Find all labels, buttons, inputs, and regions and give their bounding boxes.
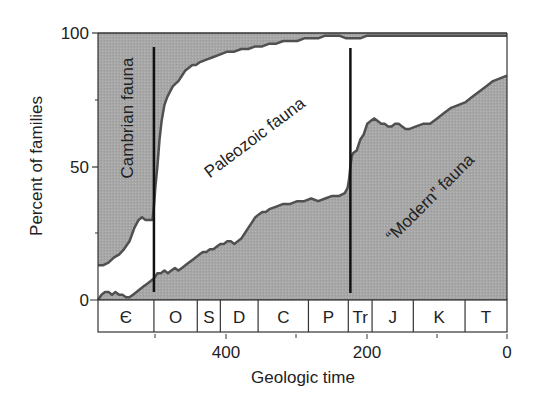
y-axis-title: Percent of families xyxy=(27,96,46,236)
cambrian-fauna-label: Cambrian fauna xyxy=(118,57,137,179)
period-label-k: K xyxy=(434,308,446,327)
x-axis-title: Geologic time xyxy=(251,368,355,387)
period-label-d: D xyxy=(233,308,245,327)
x-tick-label-0: 0 xyxy=(502,343,511,362)
x-tick-label-400: 400 xyxy=(212,343,240,362)
period-strip-frame xyxy=(98,300,507,332)
period-label-o: O xyxy=(169,308,182,327)
period-label-tr: Tr xyxy=(352,308,368,327)
y-tick-label-100: 100 xyxy=(61,24,89,43)
y-tick-label-0: 0 xyxy=(80,291,89,310)
period-label-j: J xyxy=(388,308,397,327)
geologic-period-strip: ЄOSDCPTrJKT xyxy=(98,300,507,332)
period-label-є: Є xyxy=(120,308,132,327)
period-label-t: T xyxy=(481,308,491,327)
x-tick-label-200: 200 xyxy=(353,343,381,362)
y-tick-label-50: 50 xyxy=(70,158,89,177)
period-label-p: P xyxy=(323,308,334,327)
period-label-s: S xyxy=(203,308,214,327)
fauna-chart: 100 50 0 ЄOSDCPTrJKT 400 200 0 Geologic … xyxy=(0,0,542,409)
period-label-c: C xyxy=(277,308,289,327)
